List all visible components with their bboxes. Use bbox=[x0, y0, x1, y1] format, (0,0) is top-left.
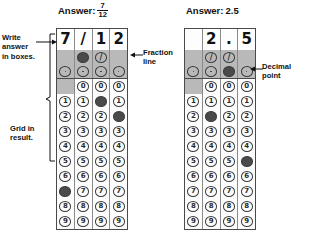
digit-7-cell-3[interactable]: 7 bbox=[221, 184, 239, 199]
digit-7-cell-1[interactable] bbox=[57, 184, 75, 199]
digit-1-cell-1[interactable]: 1 bbox=[57, 94, 75, 109]
decimal-row-cell-3[interactable] bbox=[93, 65, 111, 78]
bubble-digit-1-col4[interactable]: 1 bbox=[113, 96, 125, 107]
digit-9-cell-1[interactable]: 9 bbox=[57, 214, 75, 229]
decimal-grid[interactable]: 2.5//00011112223333444455566667777888899… bbox=[184, 28, 256, 230]
decimal-point-bubble-row[interactable] bbox=[57, 65, 127, 79]
bubble-digit-9-col4[interactable]: 9 bbox=[241, 216, 253, 227]
bubble-digit-6-col3[interactable]: 6 bbox=[95, 171, 107, 182]
bubble-decimal-row-col3-filled[interactable] bbox=[223, 66, 235, 77]
bubble-digit-3-col3[interactable]: 3 bbox=[95, 126, 107, 137]
digit-row-8[interactable]: 8888 bbox=[185, 199, 255, 214]
digit-9-cell-3[interactable]: 9 bbox=[93, 214, 111, 229]
bubble-digit-3-col3[interactable]: 3 bbox=[223, 126, 235, 137]
bubble-digit-8-col3[interactable]: 8 bbox=[223, 201, 235, 212]
digit-1-cell-4[interactable]: 1 bbox=[238, 94, 255, 109]
slash-row-cell-3[interactable]: / bbox=[221, 50, 239, 65]
digit-6-cell-3[interactable]: 6 bbox=[221, 169, 239, 184]
digit-6-cell-1[interactable]: 6 bbox=[185, 169, 203, 184]
decimal-row-cell-2[interactable] bbox=[203, 65, 221, 78]
digit-3-cell-4[interactable]: 3 bbox=[238, 124, 255, 139]
digit-8-cell-1[interactable]: 8 bbox=[185, 199, 203, 214]
digit-7-cell-3[interactable]: 7 bbox=[93, 184, 111, 199]
digit-4-cell-1[interactable]: 4 bbox=[185, 139, 203, 154]
bubble-digit-0-col4[interactable]: 0 bbox=[113, 81, 125, 92]
digit-1-cell-4[interactable]: 1 bbox=[110, 94, 127, 109]
digit-8-cell-3[interactable]: 8 bbox=[221, 199, 239, 214]
digit-0-cell-2[interactable]: 0 bbox=[203, 79, 221, 94]
digit-6-cell-3[interactable]: 6 bbox=[93, 169, 111, 184]
bubble-digit-6-col4[interactable]: 6 bbox=[113, 171, 125, 182]
digit-1-cell-3[interactable]: 1 bbox=[221, 94, 239, 109]
digit-row-0[interactable]: 000 bbox=[185, 79, 255, 94]
digit-9-cell-2[interactable]: 9 bbox=[203, 214, 221, 229]
bubble-digit-4-col1[interactable]: 4 bbox=[59, 141, 71, 152]
bubble-decimal-row-col1[interactable] bbox=[59, 66, 71, 77]
digit-4-cell-4[interactable]: 4 bbox=[110, 139, 127, 154]
written-answer-box-2[interactable]: / bbox=[75, 29, 93, 50]
bubble-slash-row-col3[interactable]: / bbox=[95, 52, 107, 63]
bubble-digit-1-col2[interactable]: 1 bbox=[205, 96, 217, 107]
bubble-digit-5-col1[interactable]: 5 bbox=[187, 156, 199, 167]
digit-2-cell-1[interactable]: 2 bbox=[185, 109, 203, 124]
bubble-digit-0-col3[interactable]: 0 bbox=[223, 81, 235, 92]
bubble-digit-4-col3[interactable]: 4 bbox=[95, 141, 107, 152]
decimal-row-cell-4[interactable] bbox=[110, 65, 127, 78]
fraction-line-bubble-row[interactable]: // bbox=[185, 50, 255, 65]
digit-1-cell-3[interactable] bbox=[93, 94, 111, 109]
bubble-digit-5-col2[interactable]: 5 bbox=[205, 156, 217, 167]
digit-0-cell-3[interactable]: 0 bbox=[221, 79, 239, 94]
decimal-point-bubble-row[interactable] bbox=[185, 65, 255, 79]
bubble-digit-7-col4[interactable]: 7 bbox=[113, 186, 125, 197]
bubble-digit-6-col2[interactable]: 6 bbox=[205, 171, 217, 182]
bubble-digit-9-col1[interactable]: 9 bbox=[187, 216, 199, 227]
digit-2-cell-4[interactable] bbox=[110, 109, 127, 124]
bubble-digit-9-col1[interactable]: 9 bbox=[59, 216, 71, 227]
bubble-digit-5-col4[interactable]: 5 bbox=[113, 156, 125, 167]
written-answer-box-3[interactable]: . bbox=[221, 29, 239, 50]
bubble-digit-3-col4[interactable]: 3 bbox=[241, 126, 253, 137]
digit-9-cell-3[interactable]: 9 bbox=[221, 214, 239, 229]
digit-5-cell-1[interactable]: 5 bbox=[57, 154, 75, 169]
bubble-digit-1-col3-filled[interactable] bbox=[95, 96, 107, 107]
digit-row-3[interactable]: 3333 bbox=[57, 124, 127, 139]
bubble-digit-3-col1[interactable]: 3 bbox=[59, 126, 71, 137]
digit-6-cell-4[interactable]: 6 bbox=[110, 169, 127, 184]
bubble-digit-5-col2[interactable]: 5 bbox=[77, 156, 89, 167]
digit-9-cell-4[interactable]: 9 bbox=[110, 214, 127, 229]
bubble-digit-2-col3[interactable]: 2 bbox=[223, 111, 235, 122]
digit-row-7[interactable]: 7777 bbox=[185, 184, 255, 199]
decimal-row-cell-1[interactable] bbox=[57, 65, 75, 78]
digit-4-cell-3[interactable]: 4 bbox=[93, 139, 111, 154]
bubble-digit-8-col1[interactable]: 8 bbox=[187, 201, 199, 212]
digit-row-5[interactable]: 555 bbox=[185, 154, 255, 169]
digit-2-cell-2[interactable] bbox=[203, 109, 221, 124]
digit-4-cell-4[interactable]: 4 bbox=[238, 139, 255, 154]
written-answer-box-3[interactable]: 1 bbox=[93, 29, 111, 50]
bubble-digit-9-col2[interactable]: 9 bbox=[205, 216, 217, 227]
written-answer-box-4[interactable]: 5 bbox=[238, 29, 255, 50]
digit-6-cell-4[interactable]: 6 bbox=[238, 169, 255, 184]
bubble-digit-7-col2[interactable]: 7 bbox=[77, 186, 89, 197]
digit-row-1[interactable]: 1111 bbox=[185, 94, 255, 109]
bubble-digit-0-col3[interactable]: 0 bbox=[95, 81, 107, 92]
digit-0-cell-1[interactable] bbox=[57, 79, 75, 94]
digit-row-2[interactable]: 222 bbox=[57, 109, 127, 124]
digit-row-6[interactable]: 6666 bbox=[57, 169, 127, 184]
digit-row-5[interactable]: 5555 bbox=[57, 154, 127, 169]
digit-1-cell-1[interactable]: 1 bbox=[185, 94, 203, 109]
bubble-decimal-row-col4[interactable] bbox=[113, 66, 125, 77]
digit-3-cell-4[interactable]: 3 bbox=[110, 124, 127, 139]
digit-7-cell-1[interactable]: 7 bbox=[185, 184, 203, 199]
bubble-digit-7-col1-filled[interactable] bbox=[59, 186, 71, 197]
bubble-digit-1-col4[interactable]: 1 bbox=[241, 96, 253, 107]
digit-5-cell-2[interactable]: 5 bbox=[75, 154, 93, 169]
digit-row-6[interactable]: 6666 bbox=[185, 169, 255, 184]
digit-row-0[interactable]: 000 bbox=[57, 79, 127, 94]
written-answer-box-1[interactable]: 7 bbox=[57, 29, 75, 50]
bubble-digit-4-col1[interactable]: 4 bbox=[187, 141, 199, 152]
bubble-digit-2-col1[interactable]: 2 bbox=[187, 111, 199, 122]
digit-0-cell-1[interactable] bbox=[185, 79, 203, 94]
digit-8-cell-4[interactable]: 8 bbox=[110, 199, 127, 214]
digit-row-4[interactable]: 4444 bbox=[57, 139, 127, 154]
